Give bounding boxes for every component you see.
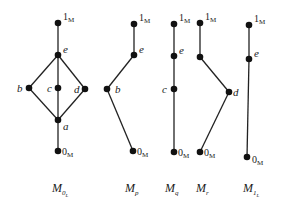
- node-label-e: e: [179, 44, 184, 56]
- node-label-c: c: [47, 82, 52, 94]
- node-1: [131, 21, 138, 28]
- edge-e-b: [29, 55, 58, 88]
- edge-d-0: [200, 92, 229, 152]
- caption-Mr: Mr: [195, 181, 209, 197]
- node-label-c: c: [162, 83, 167, 95]
- node-label-1: 1M: [139, 12, 151, 25]
- caption-M0L: M0L: [51, 181, 69, 198]
- node-1: [246, 22, 253, 29]
- edge-b-a: [29, 88, 58, 120]
- lattice-Mq: 1Mec0MMq: [162, 12, 191, 197]
- node-0: [171, 149, 178, 156]
- node-a: [55, 117, 62, 124]
- node-label-d: d: [74, 83, 80, 95]
- node-d: [226, 89, 233, 96]
- node-1: [55, 20, 62, 27]
- node-e: [131, 52, 138, 59]
- lattice-M0L: 1Mebcda0MM0L: [17, 11, 88, 198]
- edge-e-0: [247, 59, 249, 157]
- node-e: [246, 56, 253, 63]
- caption-M1L: M1L: [242, 181, 260, 198]
- node-d: [82, 86, 89, 93]
- node-label-1: 1M: [205, 11, 217, 24]
- node-label-0: 0M: [178, 147, 190, 160]
- node-0: [197, 149, 204, 156]
- caption-Mq: Mq: [164, 181, 179, 197]
- node-label-0: 0M: [62, 146, 74, 159]
- node-0: [55, 148, 62, 155]
- node-b: [104, 86, 111, 93]
- node-label-e: e: [63, 43, 68, 55]
- node-label-1: 1M: [179, 12, 191, 25]
- node-label-0: 0M: [252, 154, 264, 167]
- lattice-Mp: 1Meb0MMp: [104, 12, 151, 197]
- node-label-d: d: [233, 86, 239, 98]
- node-1: [171, 21, 178, 28]
- edge-b-0: [107, 89, 133, 151]
- node-label-b: b: [115, 83, 121, 95]
- edge-e-d: [200, 57, 229, 92]
- node-0: [130, 148, 137, 155]
- node-e: [197, 54, 204, 61]
- caption-Mp: Mp: [124, 181, 139, 197]
- node-label-e: e: [254, 47, 259, 59]
- node-e: [171, 53, 178, 60]
- node-label-1: 1M: [63, 11, 75, 24]
- edge-e-d: [58, 55, 85, 89]
- node-label-0: 0M: [137, 146, 149, 159]
- node-label-0: 0M: [204, 147, 216, 160]
- node-label-e: e: [139, 43, 144, 55]
- node-label-a: a: [63, 120, 69, 132]
- node-label-1: 1M: [254, 13, 266, 26]
- edge-e-b: [107, 55, 134, 89]
- node-c: [55, 85, 62, 92]
- node-c: [171, 86, 178, 93]
- node-e: [55, 52, 62, 59]
- lattice-diagrams-figure: 1Mebcda0MM0L1Meb0MMp1Mec0MMq1Md0MMr1Me0M…: [0, 0, 281, 212]
- node-b: [26, 85, 33, 92]
- lattice-Mr: 1Md0MMr: [195, 11, 239, 197]
- node-label-b: b: [17, 82, 23, 94]
- lattice-diagrams-svg: 1Mebcda0MM0L1Meb0MMp1Mec0MMq1Md0MMr1Me0M…: [0, 0, 281, 212]
- lattice-M1L: 1Me0MM1L: [242, 13, 266, 198]
- node-1: [197, 20, 204, 27]
- edge-d-a: [58, 89, 85, 120]
- node-0: [244, 154, 251, 161]
